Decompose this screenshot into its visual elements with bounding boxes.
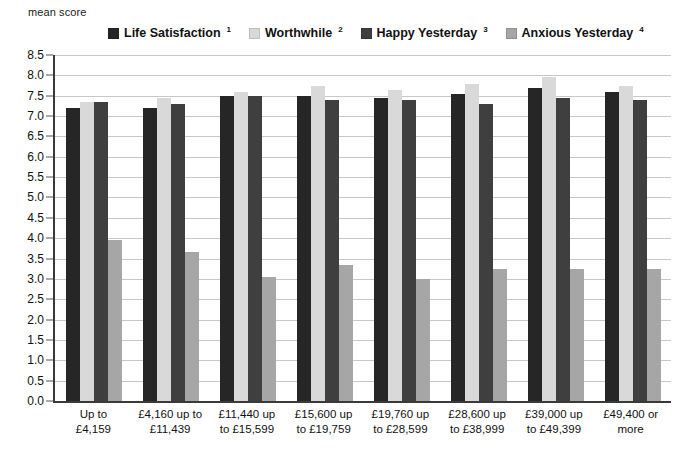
bar[interactable]	[619, 86, 633, 401]
bar[interactable]	[605, 92, 619, 401]
y-axis-tick-mark	[46, 95, 53, 96]
bar[interactable]	[416, 279, 430, 401]
bar-group	[440, 55, 517, 401]
y-axis-tick-mark	[46, 177, 53, 178]
y-axis-tick-label: 4.0	[27, 231, 44, 245]
y-axis-tick-label: 0.0	[27, 394, 44, 408]
y-axis-tick-mark	[46, 278, 53, 279]
legend-swatch-icon	[108, 28, 119, 39]
x-axis-category-line: Up to	[56, 407, 131, 422]
bar[interactable]	[325, 100, 339, 401]
y-axis-tick-label: 3.5	[27, 252, 44, 266]
plot-area	[53, 55, 671, 403]
y-axis-tick-label: 5.0	[27, 190, 44, 204]
bar[interactable]	[633, 100, 647, 401]
bar[interactable]	[402, 100, 416, 401]
y-axis-tick-mark	[46, 319, 53, 320]
x-axis-category-label: £28,600 upto £38,999	[439, 407, 516, 437]
bar-group	[517, 55, 594, 401]
x-axis-category-line: to £49,399	[517, 422, 592, 437]
legend-label: Life Satisfaction	[124, 26, 221, 40]
bar-group	[286, 55, 363, 401]
bar[interactable]	[647, 269, 661, 401]
y-axis-tick-label: 3.0	[27, 272, 44, 286]
legend-item-3[interactable]: Anxious Yesterday4	[506, 26, 644, 40]
bar[interactable]	[94, 102, 108, 401]
legend-swatch-icon	[249, 28, 260, 39]
bar[interactable]	[556, 98, 570, 401]
x-axis-category-label: £19,760 upto £28,599	[362, 407, 439, 437]
bar-group	[132, 55, 209, 401]
chart-container: mean score Life Satisfaction1Worthwhile2…	[0, 0, 679, 455]
legend-label: Worthwhile	[265, 26, 332, 40]
plot-wrapper: 8.58.07.57.06.56.05.55.04.54.03.53.02.52…	[0, 55, 679, 455]
y-axis-tick-label: 8.5	[27, 48, 44, 62]
bar[interactable]	[262, 277, 276, 401]
legend-footnote-marker: 3	[483, 25, 487, 34]
x-axis-category-line: £19,760 up	[363, 407, 438, 422]
bar[interactable]	[339, 265, 353, 401]
x-axis-category-line: £15,600 up	[286, 407, 361, 422]
bar[interactable]	[479, 104, 493, 401]
bar[interactable]	[143, 108, 157, 401]
bar[interactable]	[311, 86, 325, 401]
bar-group	[209, 55, 286, 401]
legend-item-0[interactable]: Life Satisfaction1	[108, 26, 231, 40]
legend-label: Happy Yesterday	[377, 26, 478, 40]
x-axis-labels: Up to£4,159£4,160 up to£11,439£11,440 up…	[55, 407, 669, 437]
y-axis-tick-mark	[46, 238, 53, 239]
x-axis-category-line: to £28,599	[363, 422, 438, 437]
bar-groups	[55, 55, 671, 401]
y-axis-tick-mark	[46, 217, 53, 218]
y-axis-tick-mark	[46, 197, 53, 198]
x-axis-category-line: £49,400 or	[593, 407, 668, 422]
x-axis-category-line: to £15,599	[210, 422, 285, 437]
y-axis-tick-mark	[46, 299, 53, 300]
y-axis: 8.58.07.57.06.56.05.55.04.54.03.53.02.52…	[0, 55, 54, 401]
bar[interactable]	[297, 96, 311, 401]
x-axis-category-line: £11,439	[133, 422, 208, 437]
y-axis-title: mean score	[28, 6, 86, 18]
legend-swatch-icon	[361, 28, 372, 39]
y-axis-tick-label: 6.0	[27, 150, 44, 164]
y-axis-tick-label: 5.5	[27, 170, 44, 184]
x-axis-category-line: £39,000 up	[517, 407, 592, 422]
y-axis-tick-label: 7.5	[27, 89, 44, 103]
bar[interactable]	[66, 108, 80, 401]
legend-item-1[interactable]: Worthwhile2	[249, 26, 343, 40]
y-axis-tick-label: 6.5	[27, 129, 44, 143]
y-axis-tick-label: 2.5	[27, 292, 44, 306]
bar[interactable]	[248, 96, 262, 401]
bar[interactable]	[388, 90, 402, 401]
bar[interactable]	[185, 252, 199, 401]
x-axis-category-line: £11,440 up	[210, 407, 285, 422]
bar[interactable]	[465, 84, 479, 402]
x-axis-category-label: £11,440 upto £15,599	[209, 407, 286, 437]
bar[interactable]	[570, 269, 584, 401]
bar[interactable]	[528, 88, 542, 401]
bar[interactable]	[108, 240, 122, 401]
y-axis-tick-mark	[46, 136, 53, 137]
bar-group	[594, 55, 671, 401]
x-axis-category-line: £4,160 up to	[133, 407, 208, 422]
bar[interactable]	[374, 98, 388, 401]
legend-item-2[interactable]: Happy Yesterday3	[361, 26, 488, 40]
x-axis-category-label: £49,400 ormore	[592, 407, 669, 437]
legend-swatch-icon	[506, 28, 517, 39]
bar[interactable]	[80, 102, 94, 401]
x-axis-category-label: £39,000 upto £49,399	[516, 407, 593, 437]
bar[interactable]	[234, 92, 248, 401]
x-axis-category-line: to £38,999	[440, 422, 515, 437]
bar[interactable]	[220, 96, 234, 401]
bar[interactable]	[542, 77, 556, 401]
bar-group	[55, 55, 132, 401]
bar[interactable]	[493, 269, 507, 401]
x-axis-category-line: more	[593, 422, 668, 437]
x-axis-category-line: £4,159	[56, 422, 131, 437]
bar[interactable]	[451, 94, 465, 401]
y-axis-tick-label: 2.0	[27, 313, 44, 327]
bar[interactable]	[171, 104, 185, 401]
legend-footnote-marker: 4	[639, 25, 643, 34]
y-axis-tick-label: 4.5	[27, 211, 44, 225]
bar[interactable]	[157, 98, 171, 401]
